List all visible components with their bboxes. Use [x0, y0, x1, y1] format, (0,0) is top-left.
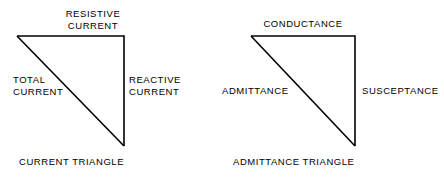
caption-current-triangle: CURRENT TRIANGLE: [19, 156, 124, 168]
label-admittance: ADMITTANCE: [222, 85, 289, 97]
label-conductance: CONDUCTANCE: [248, 18, 358, 30]
caption-admittance-triangle: ADMITTANCE TRIANGLE: [233, 156, 354, 168]
diagram-canvas: RESISTIVE CURRENT TOTAL CURRENT REACTIVE…: [0, 0, 444, 179]
label-total-current: TOTAL CURRENT: [13, 74, 63, 97]
label-reactive-current: REACTIVE CURRENT: [129, 74, 181, 97]
label-susceptance: SUSCEPTANCE: [362, 85, 439, 97]
label-resistive-current: RESISTIVE CURRENT: [48, 8, 138, 31]
